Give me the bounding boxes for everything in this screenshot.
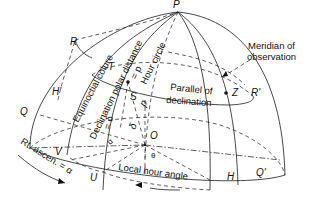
label-q: Q — [20, 106, 28, 117]
label-p-symbol: p — [136, 98, 149, 109]
label-local-hour-angle: Local hour angle — [118, 161, 189, 182]
label-meridian-line1: Meridian of — [248, 40, 295, 51]
label-q-prime: Q' — [256, 167, 267, 178]
label-p: P — [173, 0, 180, 10]
back-colure-arc — [75, 12, 178, 40]
meridian-pointer — [224, 60, 250, 76]
rt-ascen-arrowhead — [58, 178, 65, 184]
celestial-sphere-diagram: P R R' Q Q' H H' V U O Z S T Equinoctial… — [0, 0, 320, 197]
label-h: H — [227, 171, 235, 182]
label-delta-symbol: δ — [127, 121, 139, 130]
label-declination-eq: = δ — [101, 115, 115, 131]
line-o-v — [70, 145, 145, 160]
label-parallel-line2: declination — [166, 94, 212, 108]
line-o-qprime — [145, 145, 280, 160]
label-r-prime: R' — [251, 87, 261, 98]
label-s: S — [130, 91, 137, 102]
rt-ascension-arc — [70, 158, 103, 172]
label-u: U — [90, 172, 98, 183]
point-z — [224, 91, 228, 95]
label-r: R — [70, 36, 77, 47]
label-o: O — [150, 130, 158, 141]
label-theta-symbol: θ — [151, 151, 156, 160]
label-h-prime: H' — [52, 86, 62, 97]
point-o — [144, 144, 146, 146]
label-rt-ascen: Rt. ascen. = α — [19, 135, 75, 176]
lha-arrow-line — [150, 188, 180, 190]
meridian-back-dash — [168, 52, 245, 85]
lha-arrowhead — [135, 182, 142, 188]
meridian-pointer-head — [222, 71, 228, 77]
point-s — [126, 80, 130, 84]
label-meridian-line2: observation — [247, 51, 296, 62]
hemisphere-outline — [30, 12, 285, 175]
label-z: Z — [231, 87, 239, 98]
line-o-q — [30, 145, 145, 148]
